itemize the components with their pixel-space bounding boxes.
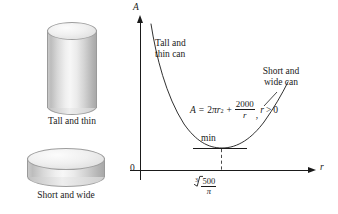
equation-fraction: 2000 r	[235, 100, 255, 120]
equation-domain-value: 0	[273, 105, 278, 115]
radical-index: 3	[195, 177, 198, 183]
radicand-numerator: 500	[201, 177, 216, 186]
equation-domain-variable: r	[260, 105, 264, 115]
short-wide-can-leader-line	[0, 0, 338, 214]
equation-fraction-denominator: r	[243, 111, 247, 120]
equation-comma: ,	[256, 110, 258, 120]
radicand-denominator: π	[207, 187, 211, 196]
equation-equals-sign: =	[199, 105, 204, 115]
x-tick-cube-root-label: 3 500 π	[192, 175, 216, 195]
figure-canvas: Tall and thin Short and wide A r 0 min T…	[0, 0, 338, 214]
equation-fraction-numerator: 2000	[235, 100, 255, 109]
equation-lhs: A	[190, 105, 196, 115]
equation-plus-sign: +	[226, 105, 231, 115]
equation-term1-exponent: 2	[220, 107, 223, 114]
radicand-fraction: 500 π	[201, 177, 216, 196]
area-equation: A = 2 π r 2 + 2000 r , r > 0	[190, 100, 278, 120]
equation-domain-relation: >	[266, 105, 271, 115]
